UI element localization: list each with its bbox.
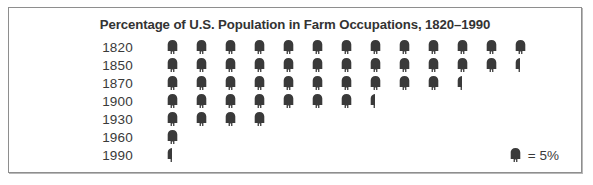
- person-icon: [196, 94, 207, 108]
- chart-frame: Percentage of U.S. Population in Farm Oc…: [8, 7, 582, 173]
- row-year-label: 1850: [57, 58, 133, 73]
- pictogram-plot-area: 1820185018701900193019601990: [9, 38, 581, 172]
- legend-label: = 5%: [528, 148, 559, 163]
- person-icon-half: [515, 58, 520, 72]
- chart-title: Percentage of U.S. Population in Farm Oc…: [9, 17, 581, 32]
- person-icon: [428, 76, 439, 90]
- person-icon: [196, 112, 207, 126]
- person-icon: [254, 58, 265, 72]
- row-icon-track: [167, 146, 190, 164]
- person-icon: [167, 40, 178, 54]
- person-icon: [312, 58, 323, 72]
- person-icon: [515, 40, 526, 54]
- row-icon-track: [167, 74, 480, 92]
- chart-row: 1990: [9, 146, 581, 164]
- person-icon: [399, 40, 410, 54]
- row-year-label: 1990: [57, 148, 133, 163]
- person-icon: [196, 40, 207, 54]
- person-icon: [196, 58, 207, 72]
- chart-legend: = 5%: [510, 147, 559, 163]
- person-icon: [225, 40, 236, 54]
- person-icon: [225, 76, 236, 90]
- person-icon: [167, 58, 178, 72]
- row-year-label: 1870: [57, 76, 133, 91]
- person-icon: [167, 76, 178, 90]
- person-icon: [167, 112, 178, 126]
- person-icon: [283, 94, 294, 108]
- row-year-label: 1900: [57, 94, 133, 109]
- chart-row: 1870: [9, 74, 581, 92]
- person-icon: [283, 58, 294, 72]
- person-icon: [283, 40, 294, 54]
- person-icon: [312, 76, 323, 90]
- person-icon: [283, 76, 294, 90]
- row-year-label: 1930: [57, 112, 133, 127]
- person-icon: [312, 94, 323, 108]
- chart-row: 1930: [9, 110, 581, 128]
- person-icon: [312, 40, 323, 54]
- row-year-label: 1820: [57, 40, 133, 55]
- row-icon-track: [167, 92, 393, 110]
- person-icon: [370, 76, 381, 90]
- person-icon: [254, 112, 265, 126]
- person-icon: [428, 40, 439, 54]
- person-icon: [457, 40, 468, 54]
- person-icon: [225, 94, 236, 108]
- chart-row: 1960: [9, 128, 581, 146]
- row-icon-track: [167, 110, 283, 128]
- person-icon-half: [370, 94, 375, 108]
- person-icon: [399, 58, 410, 72]
- person-icon: [341, 94, 352, 108]
- person-icon: [510, 148, 521, 162]
- chart-row: 1900: [9, 92, 581, 110]
- person-icon: [196, 76, 207, 90]
- person-icon: [167, 94, 178, 108]
- chart-row: 1850: [9, 56, 581, 74]
- person-icon: [486, 40, 497, 54]
- person-icon-half: [167, 148, 172, 162]
- person-icon: [254, 76, 265, 90]
- person-icon: [428, 58, 439, 72]
- row-icon-track: [167, 128, 196, 146]
- person-icon: [341, 58, 352, 72]
- person-icon: [457, 58, 468, 72]
- person-icon: [225, 112, 236, 126]
- row-icon-track: [167, 38, 544, 56]
- person-icon: [370, 40, 381, 54]
- person-icon: [399, 76, 410, 90]
- person-icon: [167, 130, 178, 144]
- person-icon: [486, 58, 497, 72]
- row-year-label: 1960: [57, 130, 133, 145]
- person-icon: [254, 94, 265, 108]
- person-icon: [254, 40, 265, 54]
- row-icon-track: [167, 56, 538, 74]
- person-icon: [341, 40, 352, 54]
- person-icon: [341, 76, 352, 90]
- chart-row: 1820: [9, 38, 581, 56]
- person-icon: [225, 58, 236, 72]
- person-icon: [370, 58, 381, 72]
- person-icon-half: [457, 76, 462, 90]
